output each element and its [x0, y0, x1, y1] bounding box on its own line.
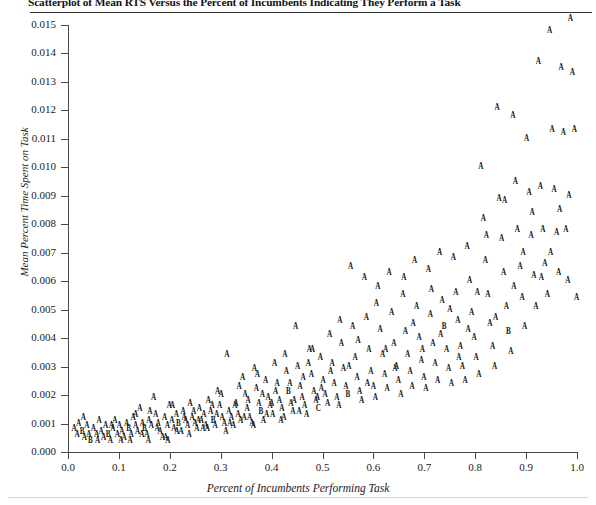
data-point-marker: A — [492, 362, 497, 372]
data-point-marker: A — [455, 316, 460, 326]
data-point-marker: A — [414, 302, 419, 312]
y-tick-mark — [61, 25, 68, 26]
data-point-marker: A — [109, 422, 114, 432]
data-point-marker: A — [465, 325, 470, 335]
data-point-marker: A — [389, 308, 394, 318]
data-point-marker: A — [423, 384, 428, 394]
data-point-marker: A — [396, 376, 401, 386]
data-point-marker: A — [508, 347, 513, 357]
data-point-marker: A — [315, 393, 320, 403]
data-point-marker: A — [536, 57, 541, 67]
data-point-marker: A — [371, 382, 376, 392]
x-tick-label: 0.1 — [99, 461, 139, 473]
data-point-marker: A — [212, 422, 217, 432]
data-point-marker: A — [513, 177, 518, 187]
data-point-marker: A — [476, 370, 481, 380]
data-point-marker: A — [127, 436, 132, 446]
data-point-marker: A — [296, 407, 301, 417]
y-tick-label: 0.003 — [4, 360, 56, 372]
data-point-marker: A — [474, 353, 479, 363]
data-point-marker: A — [403, 328, 408, 338]
data-point-marker: A — [95, 436, 100, 446]
data-point-marker: A — [449, 379, 454, 389]
data-point-marker: A — [462, 376, 467, 386]
y-tick-label: 0.002 — [4, 388, 56, 400]
data-point-marker: A — [187, 430, 192, 440]
data-point-marker: A — [549, 125, 554, 135]
data-point-marker: A — [556, 268, 561, 278]
x-tick-label: 0.2 — [150, 461, 190, 473]
data-point-marker: A — [511, 282, 516, 292]
data-point-marker: A — [219, 390, 224, 400]
data-point-marker: A — [332, 379, 337, 389]
data-point-marker: A — [487, 319, 492, 329]
data-point-marker: A — [359, 396, 364, 406]
data-point-marker: A — [374, 299, 379, 309]
data-point-marker: A — [377, 325, 382, 335]
data-point-marker: A — [478, 162, 483, 172]
y-tick-label: 0.007 — [4, 246, 56, 258]
data-point-marker: A — [570, 69, 575, 79]
data-point-marker: A — [297, 382, 302, 392]
data-point-marker: A — [350, 322, 355, 332]
data-point-marker: A — [494, 103, 499, 113]
x-tick-mark — [68, 452, 69, 459]
data-point-marker: A — [430, 339, 435, 349]
data-point-marker: A — [566, 191, 571, 201]
y-tick-label: 0.000 — [4, 445, 56, 457]
data-point-marker: A — [464, 242, 469, 252]
y-tick-mark — [61, 310, 68, 311]
y-tick-mark — [61, 139, 68, 140]
y-tick-mark — [61, 452, 68, 453]
data-point-marker: A — [551, 185, 556, 195]
data-point-marker: A — [375, 282, 380, 292]
data-point-marker: A — [447, 305, 452, 315]
x-tick-label: 0.7 — [404, 461, 444, 473]
data-point-marker: A — [401, 273, 406, 283]
data-point-marker: A — [293, 322, 298, 332]
data-point-marker: A — [254, 384, 259, 394]
data-point-marker: C — [316, 404, 321, 414]
data-point-marker: A — [146, 436, 151, 446]
y-tick-mark — [61, 367, 68, 368]
data-point-marker: A — [485, 291, 490, 301]
data-point-marker: A — [522, 322, 527, 332]
y-tick-label: 0.010 — [4, 160, 56, 172]
data-point-marker: A — [490, 342, 495, 352]
data-point-marker: A — [554, 228, 559, 238]
x-axis-label: Percent of Incumbents Performing Task — [0, 482, 596, 494]
data-point-marker: A — [533, 302, 538, 312]
data-point-marker: A — [502, 197, 507, 207]
data-point-marker: A — [181, 413, 186, 423]
data-point-marker: A — [483, 256, 488, 266]
data-point-marker: A — [520, 248, 525, 258]
data-point-marker: A — [287, 379, 292, 389]
data-point-marker: A — [565, 276, 570, 286]
data-point-marker: A — [410, 319, 415, 329]
data-point-marker: A — [327, 330, 332, 340]
data-point-marker: A — [365, 379, 370, 389]
y-tick-label: 0.012 — [4, 103, 56, 115]
data-point-marker: A — [540, 225, 545, 235]
y-tick-mark — [61, 338, 68, 339]
x-tick-mark — [475, 452, 476, 459]
data-point-marker: A — [368, 367, 373, 377]
y-tick-label: 0.006 — [4, 274, 56, 286]
x-tick-label: 0.5 — [303, 461, 343, 473]
data-point-marker: A — [278, 416, 283, 426]
data-point-marker: A — [165, 436, 170, 446]
x-tick-label: 0.0 — [48, 461, 88, 473]
data-point-marker: A — [170, 402, 175, 412]
data-point-marker: A — [574, 293, 579, 303]
y-tick-mark — [61, 196, 68, 197]
footer-rule — [8, 497, 588, 498]
data-point-marker: A — [557, 205, 562, 215]
data-point-marker: A — [426, 265, 431, 275]
x-tick-label: 0.6 — [353, 461, 393, 473]
data-point-marker: A — [456, 353, 461, 363]
data-point-marker: A — [493, 313, 498, 323]
data-point-marker: A — [467, 276, 472, 286]
data-point-marker: A — [545, 291, 550, 301]
data-point-marker: A — [260, 390, 265, 400]
data-point-marker: A — [373, 393, 378, 403]
